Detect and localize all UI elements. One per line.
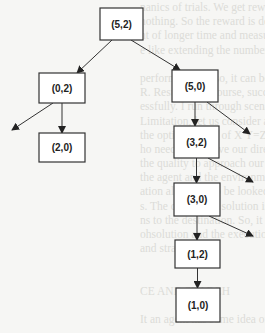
edge-arrow <box>131 40 180 70</box>
state-node: (2,0) <box>39 133 85 162</box>
state-node: (3,2) <box>174 126 219 158</box>
state-node-label: (3,2) <box>186 137 207 148</box>
state-node: (0,2) <box>39 73 85 103</box>
dangling-edge-arrow <box>12 103 53 130</box>
state-node: (5,2) <box>100 8 143 40</box>
state-node-label: (1,0) <box>188 300 209 311</box>
state-node-label: (5,0) <box>185 81 206 92</box>
state-node: (5,0) <box>172 70 218 102</box>
state-node: (1,0) <box>176 288 220 322</box>
state-node-label: (1,2) <box>187 249 208 260</box>
edge-arrow <box>77 40 112 73</box>
state-node-label: (3,0) <box>187 194 208 205</box>
state-node-label: (5,2) <box>111 19 132 30</box>
dangling-edge-arrow <box>208 158 253 182</box>
state-node: (3,0) <box>174 183 220 216</box>
dangling-edge-arrow <box>209 216 253 236</box>
state-node: (1,2) <box>175 240 220 268</box>
state-node-label: (2,0) <box>52 142 73 153</box>
state-node-label: (0,2) <box>52 83 73 94</box>
state-space-tree-diagram: (5,2)(0,2)(5,0)(2,0)(3,2)(3,0)(1,2)(1,0) <box>0 0 265 333</box>
